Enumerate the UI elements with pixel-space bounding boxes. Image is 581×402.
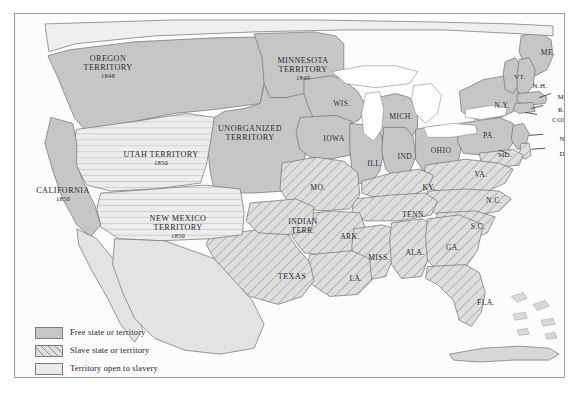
region-iowa xyxy=(296,115,354,159)
legend-swatch-open xyxy=(35,363,63,375)
legend-label-free: Free state or territory xyxy=(70,328,146,337)
legend-swatch-free xyxy=(35,327,63,339)
map-illustration xyxy=(15,14,564,377)
region-pennsylvania xyxy=(457,117,515,155)
legend-item-slave: Slave state or territory xyxy=(35,343,158,358)
region-indian-territory xyxy=(246,199,314,235)
region-new-mexico-territory xyxy=(97,185,244,241)
region-indiana xyxy=(382,127,416,177)
legend-label-slave: Slave state or territory xyxy=(70,346,149,355)
legend-item-open: Territory open to slavery xyxy=(35,361,158,376)
legend-swatch-slave xyxy=(35,345,63,357)
legend-item-free: Free state or territory xyxy=(35,325,158,340)
map-legend: Free state or territory Slave state or t… xyxy=(35,325,158,378)
legend-label-open: Territory open to slavery xyxy=(70,364,158,373)
map-frame: OREGON TERRITORY1848 MINNESOTA TERRITORY… xyxy=(14,13,565,378)
map-root: OREGON TERRITORY1848 MINNESOTA TERRITORY… xyxy=(0,0,581,402)
